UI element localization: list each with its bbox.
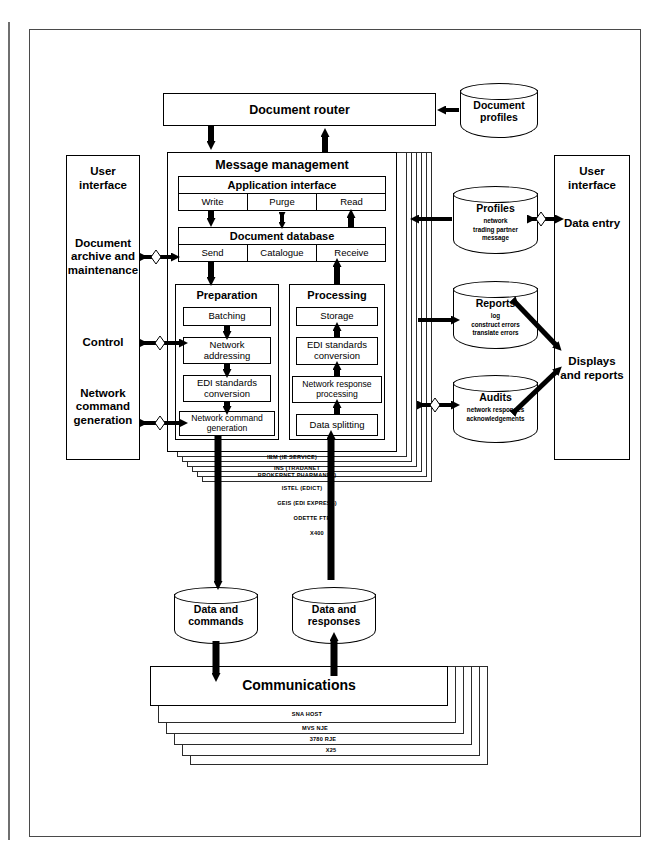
application-interface-title: Application interface (178, 177, 386, 193)
communications-title: Communications (150, 672, 448, 700)
left-panel-title: User interface (66, 162, 140, 196)
page-edge-left (8, 22, 10, 840)
right-panel-title: User interface (554, 162, 630, 196)
left-panel-item-control[interactable]: Control (66, 334, 140, 352)
processing-step-edi-standards-conversion[interactable]: EDI standards conversion (296, 337, 378, 365)
diagram-canvas: Document router Document profiles User i… (0, 0, 670, 860)
communications-layer-label-sna-host: SNA HOST (158, 708, 456, 720)
communications-layer-label-x25: X25 (182, 744, 480, 756)
right-panel-item-data-entry[interactable]: Data entry (552, 215, 632, 233)
processing-step-network-response-processing[interactable]: Network response processing (292, 376, 382, 403)
processing-step-data-splitting[interactable]: Data splitting (296, 414, 378, 436)
profiles-label: Profiles (453, 202, 538, 214)
right-panel-item-displays-and-reports[interactable]: Displays and reports (550, 352, 634, 386)
network-layer-label-odette: ODETTE FTP (197, 513, 427, 524)
message-management-title: Message management (167, 156, 397, 173)
application-interface-cell-read[interactable]: Read (317, 194, 386, 211)
cylinder-top (174, 587, 258, 604)
document-router-label: Document router (249, 103, 350, 117)
reports-label: Reports (453, 297, 538, 309)
network-layer-label-istel: ISTEL (EDICT) (187, 483, 417, 494)
document-database-cell-receive[interactable]: Receive (317, 245, 386, 262)
data-and-responses-label: Data and responses (292, 603, 376, 627)
preparation-step-batching[interactable]: Batching (183, 307, 271, 326)
reports-cylinder[interactable]: Reports log construct errors translate e… (453, 281, 538, 349)
cylinder-top (460, 83, 538, 100)
network-layer-label-geis: GEIS (EDI EXPRESS) (192, 498, 422, 509)
reports-details: log construct errors translate errors (453, 312, 538, 338)
cylinder-top (453, 375, 538, 392)
profiles-cylinder[interactable]: Profiles network trading partner message (453, 186, 538, 254)
data-and-commands-cylinder[interactable]: Data and commands (174, 587, 258, 644)
document-profiles-label: Document profiles (460, 99, 538, 123)
right-user-interface-panel[interactable] (554, 155, 630, 460)
preparation-step-edi-standards-conversion[interactable]: EDI standards conversion (183, 375, 271, 402)
audits-details: network responses acknowledgements (453, 406, 538, 423)
network-layer-label-ibm: IBM (IE SERVICE) (177, 452, 407, 463)
preparation-title: Preparation (175, 287, 279, 303)
data-and-commands-label: Data and commands (174, 603, 258, 627)
left-panel-item-network-command-generation[interactable]: Network command generation (64, 384, 142, 430)
preparation-step-network-addressing[interactable]: Network addressing (183, 337, 271, 364)
document-database-cell-catalogue[interactable]: Catalogue (247, 245, 317, 262)
preparation-step-network-command-generation[interactable]: Network command generation (179, 411, 275, 436)
document-database-title: Document database (178, 228, 386, 244)
audits-label: Audits (453, 391, 538, 403)
application-interface-cell-write[interactable]: Write (178, 194, 247, 211)
document-router-box[interactable]: Document router (163, 93, 436, 126)
cylinder-top (292, 587, 376, 604)
cylinder-top (453, 281, 538, 298)
processing-title: Processing (289, 287, 385, 303)
document-database-cell-send[interactable]: Send (178, 245, 247, 262)
processing-step-storage[interactable]: Storage (296, 307, 378, 326)
profiles-details: network trading partner message (453, 217, 538, 243)
network-layer-label-x400: X400 (202, 528, 432, 539)
data-and-responses-cylinder[interactable]: Data and responses (292, 587, 376, 644)
network-layer-label-ins: INS (TRADANET BROKERNET PHARMANET) (182, 464, 412, 479)
audits-cylinder[interactable]: Audits network responses acknowledgement… (453, 375, 538, 443)
document-profiles-cylinder[interactable]: Document profiles (460, 83, 538, 138)
cylinder-top (453, 186, 538, 203)
application-interface-cell-purge[interactable]: Purge (247, 194, 317, 211)
left-panel-item-document-archive[interactable]: Document archive and maintenance (62, 235, 144, 279)
